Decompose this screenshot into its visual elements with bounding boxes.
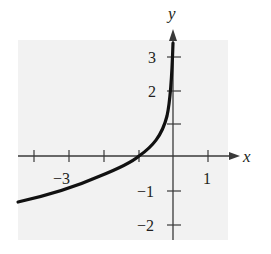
- x-axis-label: x: [242, 147, 251, 166]
- x-tick-label-1: 1: [203, 170, 211, 187]
- function-graph: x y −3 1 3 2 −1 −2: [0, 0, 271, 254]
- y-tick-label-2: 2: [148, 83, 156, 100]
- y-tick-label-neg2: −2: [137, 217, 154, 234]
- plot-background: [18, 40, 228, 240]
- y-axis-arrow-icon: [169, 29, 177, 41]
- x-tick-label-neg3: −3: [53, 170, 70, 187]
- y-tick-label-3: 3: [148, 49, 156, 66]
- x-axis-arrow-icon: [229, 152, 240, 160]
- y-tick-label-neg1: −1: [137, 183, 154, 200]
- y-axis-label: y: [166, 4, 176, 23]
